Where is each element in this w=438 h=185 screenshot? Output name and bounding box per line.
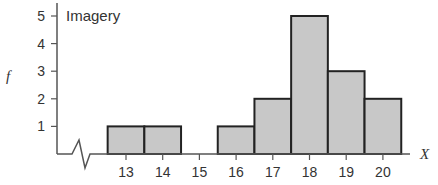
x-tick-label: 17 bbox=[265, 164, 281, 180]
bar-20 bbox=[365, 99, 402, 154]
y-tick-label: 2 bbox=[37, 91, 45, 107]
x-ticks-group: 1314151617181920 bbox=[118, 154, 391, 180]
x-tick-label: 13 bbox=[118, 164, 134, 180]
y-tick-label: 1 bbox=[37, 118, 45, 134]
bar-19 bbox=[328, 71, 365, 154]
x-tick-label: 15 bbox=[192, 164, 208, 180]
bar-13 bbox=[108, 126, 145, 154]
x-tick-label: 20 bbox=[375, 164, 391, 180]
bars-group bbox=[108, 16, 402, 154]
bar-18 bbox=[291, 16, 328, 154]
x-tick-label: 14 bbox=[155, 164, 171, 180]
y-ticks-group: 12345 bbox=[37, 8, 57, 134]
histogram-chart: 12345 1314151617181920 Imagery f X bbox=[0, 0, 438, 185]
y-tick-label: 4 bbox=[37, 36, 45, 52]
y-tick-label: 3 bbox=[37, 63, 45, 79]
x-axis-label: X bbox=[419, 146, 430, 162]
bar-16 bbox=[218, 126, 255, 154]
x-tick-label: 18 bbox=[302, 164, 318, 180]
y-tick-label: 5 bbox=[37, 8, 45, 24]
bar-17 bbox=[254, 99, 291, 154]
y-axis-label: f bbox=[6, 68, 12, 84]
x-tick-label: 19 bbox=[338, 164, 354, 180]
chart-title: Imagery bbox=[66, 7, 121, 24]
bar-14 bbox=[144, 126, 181, 154]
x-tick-label: 16 bbox=[228, 164, 244, 180]
